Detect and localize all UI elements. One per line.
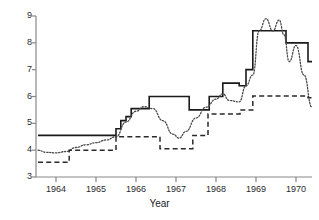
y-tick-label: 8 (10, 38, 32, 47)
x-tick-label: 1969 (236, 185, 276, 194)
data-series-group (38, 19, 312, 163)
x-tick-label: 1964 (36, 185, 76, 194)
y-tick-label: 6 (10, 92, 32, 101)
y-tick-label: 5 (10, 118, 32, 127)
x-tick-label: 1965 (76, 185, 116, 194)
dashed-series (38, 96, 312, 162)
chart-container: 3456789 1964196519661967196819691970 Yea… (0, 0, 319, 220)
y-tick-label: 4 (10, 145, 32, 154)
x-tick-label: 1970 (276, 185, 316, 194)
x-axis-title: Year (0, 198, 319, 209)
x-tick-label: 1967 (156, 185, 196, 194)
y-tick-label: 7 (10, 65, 32, 74)
dotted-series (38, 19, 312, 153)
y-tick-label: 9 (10, 11, 32, 20)
x-tick-label: 1966 (116, 185, 156, 194)
solid-series (38, 31, 312, 136)
x-tick-label: 1968 (196, 185, 236, 194)
y-tick-label: 3 (10, 172, 32, 181)
